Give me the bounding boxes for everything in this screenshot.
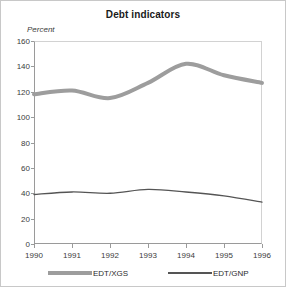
- x-tick-label: 1994: [177, 251, 195, 260]
- x-tick-mark: [34, 244, 35, 248]
- y-tick-label: 20: [21, 214, 30, 223]
- x-tick-mark: [148, 244, 149, 248]
- x-tick-mark: [110, 244, 111, 248]
- legend-label-edt-xgs: EDT/XGS: [92, 269, 128, 278]
- x-tick-mark: [72, 244, 73, 248]
- series-line-edt-xgs: [34, 64, 262, 98]
- y-tick-label: 160: [17, 37, 30, 46]
- series-line-edt-gnp: [34, 189, 262, 202]
- x-tick-mark: [186, 244, 187, 248]
- x-tick-mark: [224, 244, 225, 248]
- y-tick-label: 40: [21, 189, 30, 198]
- chart-figure: Debt indicators Percent 0204060801001201…: [0, 0, 286, 287]
- x-axis-tick-marks: [34, 244, 262, 248]
- y-tick-label: 60: [21, 163, 30, 172]
- x-tick-label: 1995: [215, 251, 233, 260]
- legend-entry-edt-xgs: EDT/XGS: [48, 267, 128, 279]
- y-tick-label: 140: [17, 62, 30, 71]
- legend-label-edt-gnp: EDT/GNP: [212, 269, 249, 278]
- x-tick-mark: [262, 244, 263, 248]
- y-axis-tick-labels: 020406080100120140160: [6, 41, 30, 244]
- x-tick-label: 1991: [63, 251, 81, 260]
- legend-swatch-icon-edt-xgs: [48, 271, 92, 275]
- chart-legend: EDT/XGS EDT/GNP: [34, 267, 266, 281]
- y-tick-label: 120: [17, 87, 30, 96]
- x-tick-label: 1990: [25, 251, 43, 260]
- legend-entry-edt-gnp: EDT/GNP: [168, 267, 249, 279]
- y-tick-label: 0: [26, 240, 30, 249]
- plot-area: [34, 41, 262, 244]
- x-axis-tick-labels: 1990199119921993199419951996: [34, 251, 262, 263]
- y-axis-label: Percent: [27, 25, 55, 34]
- plot-lines: [34, 41, 262, 244]
- y-tick-label: 100: [17, 113, 30, 122]
- legend-swatch-icon-edt-gnp: [168, 272, 212, 274]
- x-tick-label: 1996: [253, 251, 271, 260]
- x-tick-label: 1993: [139, 251, 157, 260]
- x-tick-label: 1992: [101, 251, 119, 260]
- chart-title: Debt indicators: [1, 9, 285, 20]
- y-tick-label: 80: [21, 138, 30, 147]
